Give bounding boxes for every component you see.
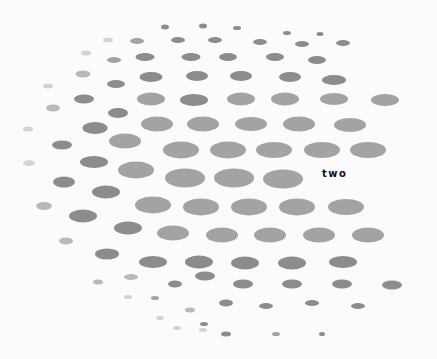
halftone-dot xyxy=(382,281,402,290)
halftone-dot xyxy=(103,38,113,43)
halftone-dot xyxy=(259,303,273,309)
halftone-dot xyxy=(352,228,384,243)
halftone-dot xyxy=(108,108,128,118)
halftone-dot xyxy=(308,56,326,64)
halftone-dot xyxy=(114,222,142,235)
halftone-dot xyxy=(283,31,291,35)
halftone-dot xyxy=(124,295,132,299)
halftone-dot xyxy=(206,228,238,243)
halftone-dot xyxy=(227,93,255,106)
halftone-dot xyxy=(233,26,241,30)
halftone-dot xyxy=(93,280,103,285)
halftone-dot xyxy=(185,256,213,269)
halftone-dot xyxy=(43,84,53,89)
halftone-dot xyxy=(320,93,348,105)
halftone-dot xyxy=(74,95,94,104)
halftone-dot xyxy=(282,280,302,289)
halftone-dot xyxy=(130,38,144,44)
halftone-dot xyxy=(186,71,208,81)
halftone-dot xyxy=(256,142,292,158)
halftone-dot xyxy=(95,249,119,260)
halftone-dot xyxy=(283,117,315,132)
halftone-dot xyxy=(83,122,108,134)
halftone-dot xyxy=(180,94,208,106)
halftone-dot xyxy=(317,32,324,36)
halftone-dot xyxy=(80,156,108,168)
halftone-dot xyxy=(332,280,352,289)
halftone-dot xyxy=(214,169,254,188)
halftone-dot xyxy=(124,274,138,280)
halftone-dot xyxy=(109,134,141,149)
halftone-dot xyxy=(199,328,207,332)
halftone-dot xyxy=(141,117,173,132)
halftone-dot xyxy=(235,117,267,131)
halftone-dot xyxy=(171,37,185,43)
halftone-dot xyxy=(81,51,91,56)
halftone-dot xyxy=(210,142,246,159)
halftone-dot xyxy=(52,141,72,150)
halftone-dot xyxy=(139,256,167,268)
halftone-dot xyxy=(163,142,199,159)
halftone-dot xyxy=(351,303,365,309)
halftone-dot xyxy=(76,71,91,78)
halftone-dot xyxy=(136,53,155,61)
halftone-dot xyxy=(157,226,189,241)
halftone-dot xyxy=(231,199,267,216)
halftone-dot xyxy=(156,316,164,320)
halftone-dot xyxy=(221,332,231,337)
halftone-dot xyxy=(182,53,201,61)
halftone-dot xyxy=(271,93,299,106)
halftone-dot xyxy=(279,199,315,216)
halftone-dot xyxy=(137,93,165,106)
halftone-dot xyxy=(36,202,52,210)
halftone-dot xyxy=(53,177,75,188)
halftone-dot xyxy=(23,127,33,132)
halftone-dot xyxy=(272,332,280,336)
halftone-dot xyxy=(263,170,303,189)
halftone-dot xyxy=(334,118,366,132)
halftone-dot xyxy=(107,57,121,63)
halftone-dot xyxy=(69,210,97,223)
halftone-dot xyxy=(118,162,154,179)
halftone-dot xyxy=(253,39,267,45)
halftone-dot-graphic xyxy=(0,0,437,359)
halftone-dot xyxy=(208,37,222,43)
halftone-dot xyxy=(168,281,182,288)
halftone-dot xyxy=(165,169,205,188)
halftone-dot xyxy=(46,105,60,112)
halftone-dot xyxy=(328,199,364,215)
halftone-dot xyxy=(371,94,399,106)
halftone-dot xyxy=(231,257,259,270)
halftone-dot xyxy=(59,238,73,245)
halftone-dot xyxy=(304,142,340,158)
halftone-dot xyxy=(336,40,350,46)
halftone-dot xyxy=(151,296,159,300)
halftone-dot xyxy=(173,326,181,330)
halftone-dot xyxy=(219,300,233,307)
halftone-dot xyxy=(305,300,319,306)
halftone-dot xyxy=(329,256,357,268)
halftone-dot xyxy=(92,186,120,199)
halftone-dot xyxy=(319,332,325,336)
halftone-dot xyxy=(185,308,195,313)
halftone-dot xyxy=(187,117,219,132)
caption-text: two xyxy=(322,168,347,179)
halftone-dot xyxy=(233,280,253,289)
halftone-dot xyxy=(254,228,286,243)
halftone-dot xyxy=(278,257,306,270)
halftone-dot xyxy=(219,53,237,61)
halftone-dot xyxy=(200,322,208,326)
halftone-dot xyxy=(279,72,301,82)
halftone-dot xyxy=(23,160,35,166)
halftone-dot xyxy=(161,25,169,30)
halftone-dot xyxy=(303,228,335,243)
halftone-dot xyxy=(135,197,171,214)
halftone-dot xyxy=(230,71,252,81)
halftone-dot xyxy=(266,53,284,61)
halftone-dot xyxy=(183,199,219,216)
halftone-dot xyxy=(195,272,215,281)
halftone-dot xyxy=(295,41,309,47)
halftone-dot xyxy=(199,24,207,29)
halftone-dot xyxy=(140,72,163,82)
halftone-dot xyxy=(107,80,125,88)
